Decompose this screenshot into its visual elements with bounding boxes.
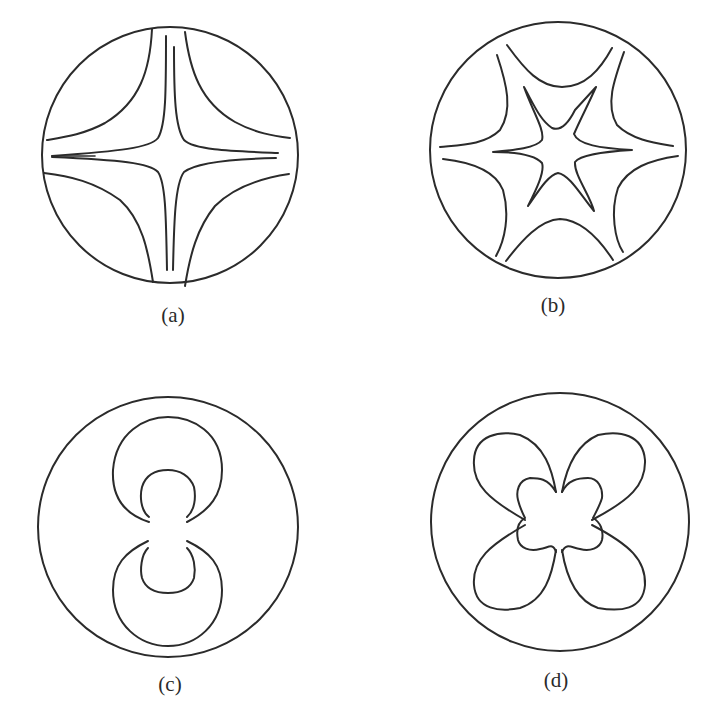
panel-c-lower-crescent-inner [141, 548, 195, 593]
panel-d-inner-flower [517, 478, 602, 552]
panel-c-boundary-circle [38, 397, 298, 657]
panel-b-label: (b) [541, 293, 566, 318]
panel-d-boundary-circle [431, 393, 689, 651]
panel-a-inner-star [52, 36, 278, 270]
panel-b-outer-curve-upper-right [611, 52, 673, 146]
panel-b-outer-curve-top [507, 45, 612, 87]
figure-canvas [0, 0, 718, 716]
panel-b-outer-curve-lower-left [443, 159, 506, 256]
panel-d-petal-top-left [474, 433, 556, 520]
panel-d-label: (d) [544, 668, 569, 693]
panel-d-petal-top-right [562, 433, 645, 520]
panel-c-label: (c) [158, 672, 181, 697]
panel-b-outer-curve-lower-right [614, 156, 678, 252]
figure: (a) (b) (c) (d) [0, 0, 718, 716]
panel-b-boundary-circle [430, 22, 686, 278]
panel-b-outer-curve-upper-left [440, 55, 507, 147]
panel-d-petal-bottom-right [562, 525, 645, 610]
panel-b-diagram [430, 22, 686, 278]
panel-b-outer-curve-bottom [506, 219, 613, 261]
panel-a-outer-curve-tr [185, 32, 290, 138]
panel-a-diagram [42, 27, 298, 286]
panel-a-label: (a) [161, 303, 184, 328]
panel-d-diagram [431, 393, 689, 651]
panel-c-upper-crescent-inner [141, 470, 195, 517]
panel-a-boundary-circle [42, 27, 298, 283]
panel-d-petal-bottom-left [474, 525, 556, 610]
panel-a-outer-curve-bl [44, 173, 153, 282]
panel-c-diagram [38, 397, 298, 657]
